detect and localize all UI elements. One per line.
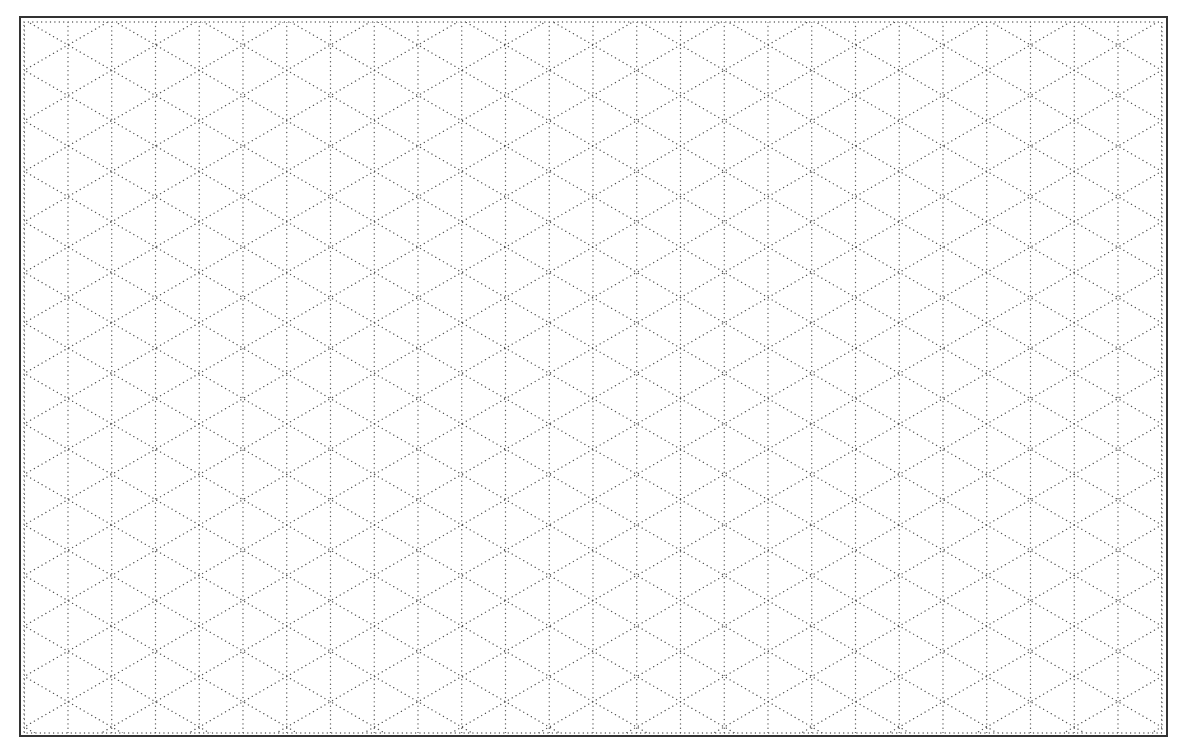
grid-diagonal-line	[0, 0, 1189, 86]
grid-diagonal-line	[0, 459, 1189, 748]
grid-diagonal-line	[0, 0, 1189, 137]
grid-diagonal-line	[0, 0, 1189, 642]
grid-diagonal-line	[0, 156, 1189, 748]
grid-diagonal-line	[0, 0, 1189, 490]
grid-diagonal-line	[0, 0, 1189, 539]
grid-diagonal-line	[0, 0, 1189, 589]
grid-diagonal-line	[0, 0, 1189, 288]
grid-diagonal-line	[0, 0, 1189, 438]
grid-diagonal-line	[0, 0, 1189, 337]
grid-diagonal-line	[0, 0, 1189, 187]
grid-diagonal-line	[0, 0, 1189, 591]
grid-diagonal-line	[0, 105, 1189, 748]
grid-diagonal-line	[0, 561, 1189, 748]
grid-diagonal-line	[0, 107, 1189, 748]
grid-diagonal-line	[0, 0, 1189, 84]
grid-diagonal-line	[0, 410, 1189, 748]
grid-diagonal-line	[0, 0, 1189, 286]
grid-diagonal-line	[0, 0, 1189, 236]
grid-diagonal-line	[0, 460, 1189, 748]
grid-diagonal-line	[0, 258, 1189, 748]
isometric-grid	[0, 0, 1189, 748]
grid-diagonal-line	[0, 0, 1189, 640]
grid-diagonal-line	[0, 511, 1189, 748]
grid-diagonal-line	[0, 0, 1189, 440]
grid-lines	[0, 0, 1189, 748]
grid-diagonal-line	[0, 0, 1189, 339]
grid-diagonal-line	[0, 0, 1189, 135]
grid-diagonal-line	[0, 257, 1189, 748]
grid-diagonal-line	[0, 0, 1189, 238]
grid-diagonal-line	[0, 208, 1189, 748]
grid-diagonal-line	[0, 509, 1189, 748]
grid-diagonal-line	[0, 661, 1189, 748]
grid-diagonal-line	[0, 711, 1189, 748]
grid-diagonal-line	[0, 560, 1189, 748]
grid-diagonal-line	[0, 0, 1189, 389]
grid-diagonal-line	[0, 56, 1189, 742]
grid-diagonal-line	[0, 359, 1189, 748]
grid-diagonal-line	[0, 713, 1189, 748]
grid-diagonal-line	[0, 0, 1189, 387]
grid-diagonal-line	[0, 309, 1189, 748]
grid-diagonal-line	[0, 408, 1189, 748]
grid-diagonal-line	[0, 0, 1189, 488]
grid-diagonal-line	[0, 612, 1189, 748]
grid-diagonal-line	[0, 206, 1189, 748]
grid-diagonal-line	[0, 157, 1189, 748]
grid-diagonal-line	[0, 55, 1189, 741]
grid-diagonal-line	[0, 358, 1189, 748]
grid-diagonal-line	[0, 610, 1189, 748]
grid-diagonal-line	[0, 0, 1189, 541]
outer-solid-border	[20, 17, 1167, 736]
grid-diagonal-line	[0, 4, 1189, 690]
grid-diagonal-line	[0, 0, 1189, 185]
grid-diagonal-line	[0, 6, 1189, 692]
grid-diagonal-line	[0, 307, 1189, 748]
grid-paper-sheet	[0, 0, 1189, 748]
